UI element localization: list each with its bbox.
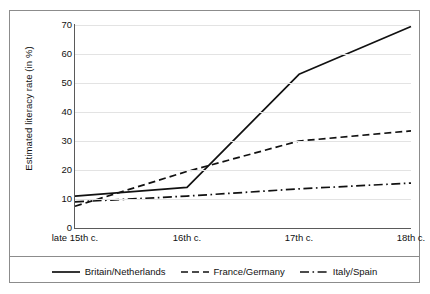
y-tick-label: 60	[61, 49, 72, 59]
gridline	[75, 83, 411, 84]
gridline	[75, 170, 411, 171]
x-tick-label: 17th c.	[285, 233, 314, 243]
y-tick-label: 20	[61, 165, 72, 175]
gridline	[75, 54, 411, 55]
solid-line-icon	[52, 267, 80, 277]
gridline	[75, 141, 411, 142]
dash-dot-line-icon	[300, 267, 328, 277]
gridline	[75, 112, 411, 113]
legend-label: France/Germany	[214, 267, 285, 277]
legend-item[interactable]: Italy/Spain	[300, 267, 377, 277]
legend-label: Italy/Spain	[333, 267, 377, 277]
legend-item[interactable]: Britain/Netherlands	[52, 267, 166, 277]
dashed-line-icon	[181, 267, 209, 277]
x-tick-label: 16th c.	[173, 233, 202, 243]
chart-figure-frame: Estimated literacy rate (in %) 010203040…	[9, 10, 420, 283]
chart-legend: Britain/NetherlandsFrance/GermanyItaly/S…	[10, 263, 419, 281]
y-tick-label: 30	[61, 136, 72, 146]
series-line	[75, 131, 411, 206]
y-tick-label: 50	[61, 78, 72, 88]
legend-label: Britain/Netherlands	[85, 267, 166, 277]
legend-divider	[10, 256, 419, 257]
series-lines	[75, 25, 411, 228]
x-tick-label: 18th c.	[397, 233, 426, 243]
gridline	[75, 199, 411, 200]
y-axis-title: Estimated literacy rate (in %)	[23, 29, 34, 189]
chart-plot-region: Estimated literacy rate (in %) 010203040…	[10, 11, 419, 251]
gridline	[75, 25, 411, 26]
y-tick-label: 40	[61, 107, 72, 117]
x-axis-tick-labels: late 15th c.16th c.17th c.18th c.	[75, 233, 411, 249]
y-tick-label: 10	[61, 194, 72, 204]
x-tick-label: late 15th c.	[52, 233, 98, 243]
x-axis-line	[74, 228, 411, 229]
y-tick-label: 70	[61, 20, 72, 30]
plot-area	[75, 25, 411, 228]
legend-item[interactable]: France/Germany	[181, 267, 285, 277]
y-axis-tick-labels: 010203040506070	[46, 11, 72, 251]
